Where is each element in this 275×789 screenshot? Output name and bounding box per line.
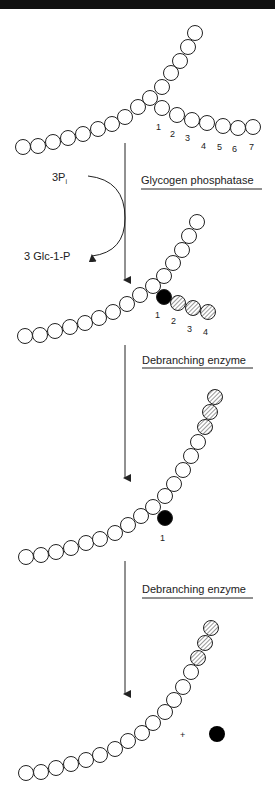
glycogen-structure-3 <box>19 390 223 565</box>
enzyme-label-debranching-2: Debranching enzyme <box>142 583 246 595</box>
svg-text:3: 3 <box>185 133 190 143</box>
phosphate-label: 3Pi <box>52 171 67 185</box>
plus-sign: + <box>180 730 185 740</box>
glycogen-structure-1 <box>16 26 261 155</box>
svg-text:4: 4 <box>203 327 208 337</box>
svg-text:6: 6 <box>232 144 237 154</box>
structure-3-label: 1 <box>160 533 165 543</box>
glycogen-degradation-diagram: 1 2 3 4 5 6 7 3Pi 3 Glc-1-P Glycogen pho… <box>0 0 275 789</box>
enzyme-label-glycogen-phosphatase: Glycogen phosphatase <box>141 174 254 186</box>
glycogen-structure-4 <box>19 621 219 781</box>
svg-text:1: 1 <box>156 122 161 132</box>
svg-text:1: 1 <box>155 310 160 320</box>
side-reaction-curve-arrow <box>88 176 125 256</box>
structure-2-labels: 1 2 3 4 <box>155 310 208 337</box>
free-glucose-molecule <box>209 726 225 742</box>
enzyme-label-debranching-1: Debranching enzyme <box>142 354 246 366</box>
svg-text:4: 4 <box>201 141 206 151</box>
svg-text:7: 7 <box>249 142 254 152</box>
svg-text:5: 5 <box>217 142 222 152</box>
glycogen-structure-2 <box>18 215 216 344</box>
svg-text:2: 2 <box>170 129 175 139</box>
glc-1-p-label: 3 Glc-1-P <box>24 250 70 262</box>
svg-text:3: 3 <box>187 324 192 334</box>
svg-text:2: 2 <box>171 316 176 326</box>
